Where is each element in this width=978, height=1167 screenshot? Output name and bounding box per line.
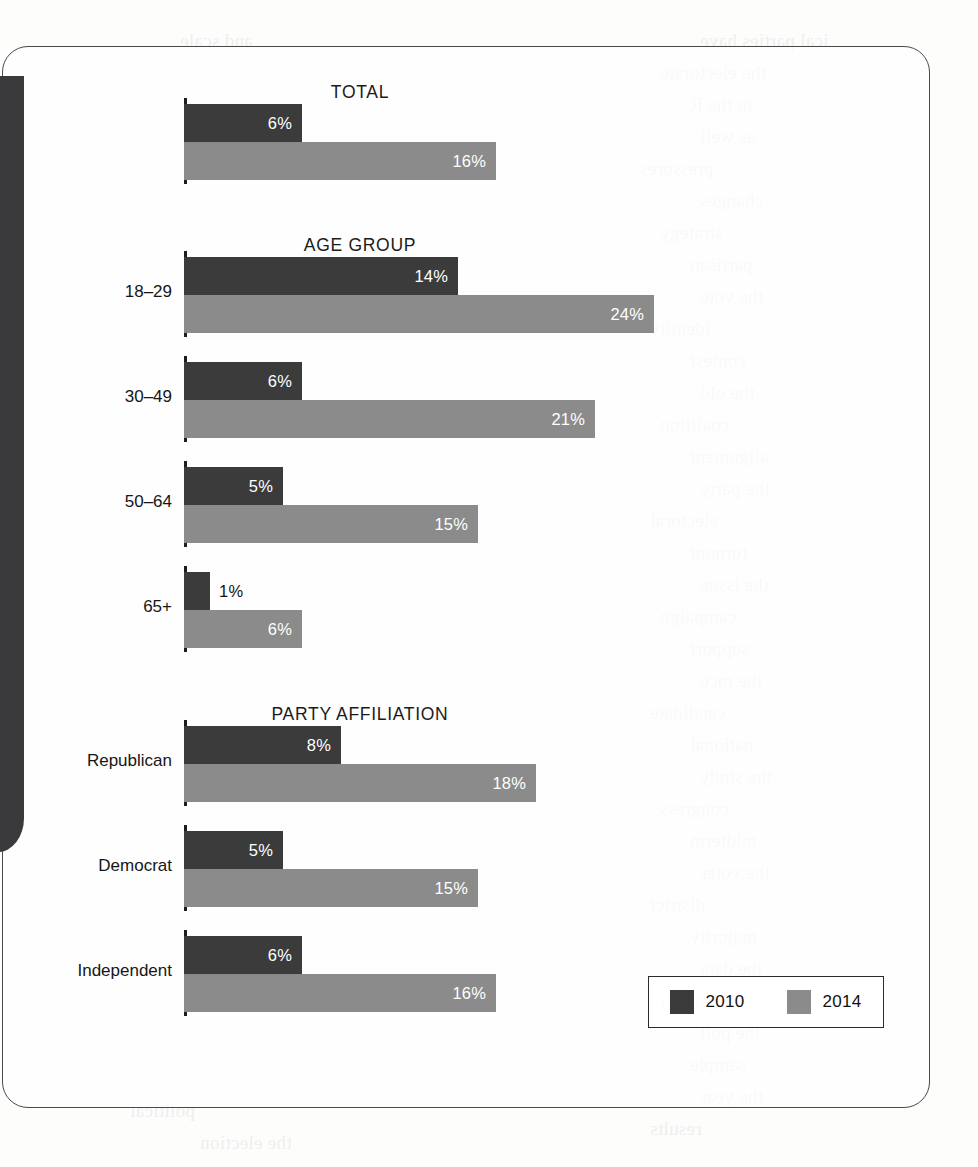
bar-2014[interactable]: 16%: [184, 974, 496, 1012]
bar-value-label: 15%: [434, 879, 478, 898]
bar-value-label: 6%: [268, 946, 302, 965]
legend-label: 2010: [705, 992, 744, 1012]
bar-value-label: 21%: [551, 410, 595, 429]
bar-2014[interactable]: 6%: [184, 610, 302, 648]
bar-value-label: 6%: [268, 620, 302, 639]
bar-value-label: 14%: [414, 267, 458, 286]
bar-value-label: 18%: [492, 774, 536, 793]
bar-value-label: 5%: [249, 477, 283, 496]
legend-swatch-icon: [787, 990, 811, 1014]
chart-legend: 20102014: [648, 976, 884, 1028]
bar-2010[interactable]: 5%: [184, 467, 283, 505]
legend-swatch-icon: [670, 990, 694, 1014]
background-text-line: results: [650, 1118, 702, 1140]
bar-2010[interactable]: 14%: [184, 257, 458, 295]
category-label: 18–29: [125, 282, 172, 302]
category-label: 50–64: [125, 492, 172, 512]
bar-2014[interactable]: 24%: [184, 295, 654, 333]
section-title: PARTY AFFILIATION: [272, 704, 449, 725]
bar-2014[interactable]: 21%: [184, 400, 595, 438]
bar-2010[interactable]: 8%: [184, 726, 341, 764]
bar-2010[interactable]: 6%: [184, 362, 302, 400]
bar-2010[interactable]: 6%: [184, 936, 302, 974]
bar-value-label: 15%: [434, 515, 478, 534]
bar-2014[interactable]: 15%: [184, 869, 478, 907]
bar-2014[interactable]: 15%: [184, 505, 478, 543]
bar-value-label: 6%: [268, 114, 302, 133]
bar-2010[interactable]: 1%: [184, 572, 210, 610]
bar-2014[interactable]: 18%: [184, 764, 536, 802]
category-label: 30–49: [125, 387, 172, 407]
section-title: TOTAL: [331, 82, 389, 103]
bar-value-label: 5%: [249, 841, 283, 860]
bar-value-label: 8%: [307, 736, 341, 755]
legend-entry-2010[interactable]: 2010: [670, 990, 744, 1014]
category-label: 65+: [143, 597, 172, 617]
legend-entry-2014[interactable]: 2014: [787, 990, 861, 1014]
category-label: Republican: [87, 751, 172, 771]
bar-2010[interactable]: 6%: [184, 104, 302, 142]
bar-value-label: 24%: [610, 305, 654, 324]
bar-2014[interactable]: 16%: [184, 142, 496, 180]
category-label: Democrat: [98, 856, 172, 876]
bar-value-label: 16%: [452, 984, 496, 1003]
legend-label: 2014: [822, 992, 861, 1012]
category-label: Independent: [77, 961, 172, 981]
bar-value-label: 6%: [268, 372, 302, 391]
bar-value-label: 1%: [210, 582, 243, 601]
bar-value-label: 16%: [452, 152, 496, 171]
chart-card: [2, 46, 930, 1108]
section-title: AGE GROUP: [304, 235, 416, 256]
book-gutter-shadow: [0, 76, 24, 852]
background-text-line: the election: [200, 1132, 292, 1154]
bar-2010[interactable]: 5%: [184, 831, 283, 869]
